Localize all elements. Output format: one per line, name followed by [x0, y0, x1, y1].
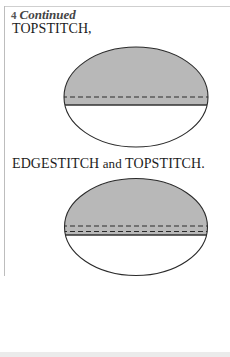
- figure-2-edgestitch-topstitch-diagram: [0, 172, 230, 282]
- edgestitch-term: EDGESTITCH: [12, 156, 99, 171]
- step-heading: 4Continued: [11, 8, 76, 22]
- figure-1-caption: TOPSTITCH,: [12, 21, 92, 37]
- figure-2-caption: EDGESTITCH and TOPSTITCH.: [12, 156, 205, 172]
- caption-and: and: [99, 156, 125, 171]
- step-number: 4: [11, 9, 17, 21]
- topstitch-term: TOPSTITCH.: [125, 156, 205, 171]
- step-continued-label: Continued: [20, 7, 76, 22]
- page-bottom-band: [0, 352, 230, 357]
- figure-1-topstitch-diagram: [0, 40, 230, 155]
- figure-1-fabric-fill: [60, 45, 215, 105]
